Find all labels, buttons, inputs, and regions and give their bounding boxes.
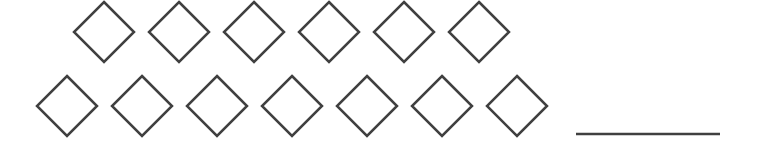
diamond-shape [374,2,434,62]
diamond-shape [299,2,359,62]
diamond-shape [337,76,397,136]
diamond-shape [187,76,247,136]
diamond-shape [449,2,509,62]
diamond-shape [262,76,322,136]
diamond-shape [224,2,284,62]
diamond-shape [487,76,547,136]
diamond-shape [412,76,472,136]
diamond-shape [37,76,97,136]
diamond-shape [149,2,209,62]
diamond-figure [0,0,765,154]
diamonds-group [37,2,547,136]
diamond-shape [74,2,134,62]
diamond-shape [112,76,172,136]
